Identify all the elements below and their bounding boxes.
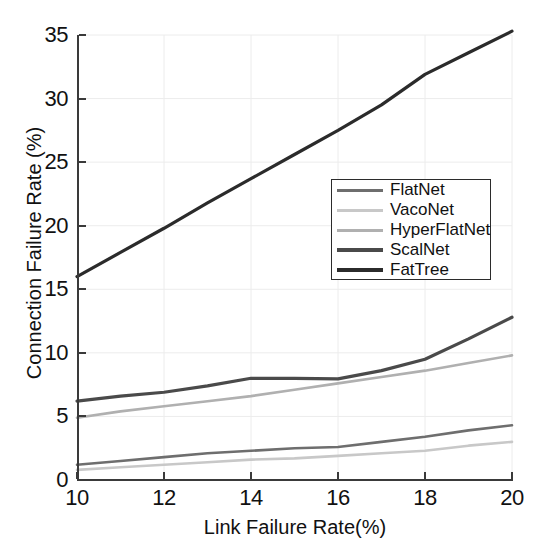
x-tick-label: 18 xyxy=(395,487,455,509)
y-tick-mark xyxy=(79,161,86,163)
x-tick-mark xyxy=(163,472,165,479)
legend-line-swatch xyxy=(337,209,383,212)
x-tick-label: 20 xyxy=(482,487,542,509)
x-tick-label: 16 xyxy=(308,487,368,509)
x-tick-mark xyxy=(250,472,252,479)
y-tick-label: 35 xyxy=(8,24,68,46)
series-line-hyperflatnet xyxy=(77,355,512,417)
x-axis-label: Link Failure Rate(%) xyxy=(77,516,513,538)
y-tick-label: 30 xyxy=(8,88,68,110)
legend-line-swatch xyxy=(337,189,383,192)
y-tick-mark xyxy=(79,352,86,354)
y-axis-line xyxy=(77,35,79,481)
y-axis-label: Connection Failure Rate (%) xyxy=(23,113,45,393)
y-tick-mark xyxy=(79,415,86,417)
legend-line-swatch xyxy=(337,229,383,232)
legend-item-label: ScalNet xyxy=(390,241,450,259)
chart-figure: 05101520253035 101214161820 Link Failure… xyxy=(0,0,543,558)
x-tick-mark xyxy=(511,472,513,479)
y-tick-mark xyxy=(79,225,86,227)
legend-line-swatch xyxy=(337,248,383,252)
legend-item-label: HyperFlatNet xyxy=(390,221,490,239)
legend-item-hyperflatnet[interactable]: HyperFlatNet xyxy=(332,220,490,240)
legend-item-scalnet[interactable]: ScalNet xyxy=(332,240,490,260)
x-tick-mark xyxy=(424,472,426,479)
y-tick-mark xyxy=(79,479,86,481)
legend: FlatNetVacoNetHyperFlatNetScalNetFatTree xyxy=(331,179,491,280)
series-line-vaconet xyxy=(77,442,512,470)
y-tick-label: 5 xyxy=(8,405,68,427)
legend-item-flatnet[interactable]: FlatNet xyxy=(332,180,490,200)
legend-item-label: FatTree xyxy=(390,261,449,279)
x-tick-mark xyxy=(337,472,339,479)
legend-item-label: FlatNet xyxy=(390,181,445,199)
y-tick-mark xyxy=(79,288,86,290)
x-tick-label: 14 xyxy=(221,487,281,509)
x-tick-mark xyxy=(76,472,78,479)
legend-item-fattree[interactable]: FatTree xyxy=(332,260,490,280)
y-tick-mark xyxy=(79,34,86,36)
x-axis-line xyxy=(77,479,513,481)
x-tick-label: 12 xyxy=(134,487,194,509)
x-tick-label: 10 xyxy=(47,487,107,509)
legend-line-swatch xyxy=(337,268,383,272)
y-tick-mark xyxy=(79,98,86,100)
legend-item-vaconet[interactable]: VacoNet xyxy=(332,200,490,220)
legend-item-label: VacoNet xyxy=(390,201,454,219)
